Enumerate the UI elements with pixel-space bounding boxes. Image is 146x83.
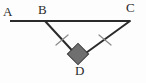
- geometry-figure: A B C D: [0, 0, 146, 83]
- right-angle-marker-D: [67, 43, 88, 64]
- vertex-label-d: D: [75, 64, 84, 77]
- vertex-label-c: C: [126, 1, 135, 14]
- vertex-label-b: B: [38, 3, 47, 16]
- vertex-label-a: A: [3, 5, 12, 18]
- figure-canvas: [0, 0, 146, 83]
